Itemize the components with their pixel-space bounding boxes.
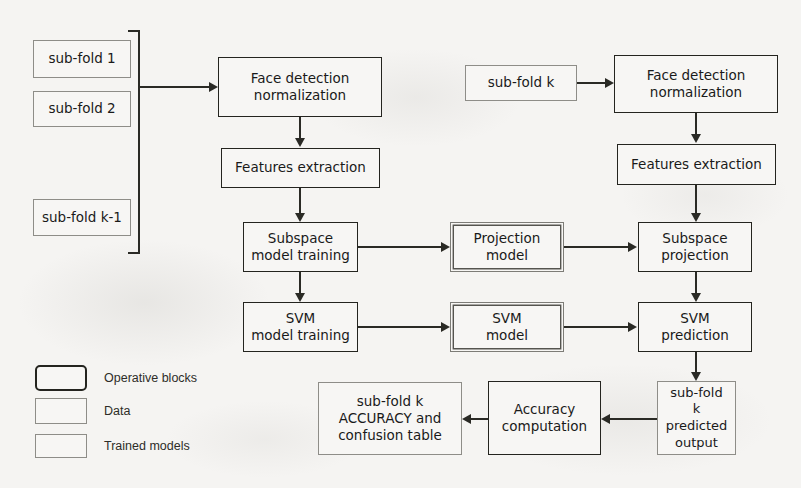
node-subfold-k: sub-fold k [465, 65, 577, 101]
node-subfold-k-minus-1-label: sub-fold k-1 [42, 209, 122, 226]
legend-label-operative-blocks: Operative blocks [104, 371, 197, 385]
trained-models-swatch-icon [35, 434, 87, 458]
node-subspace-projection: Subspace projection [638, 222, 752, 272]
node-subspace-projection-label: Subspace projection [661, 230, 728, 265]
node-train-features-extraction-label: Features extraction [235, 159, 366, 176]
arrowhead-test-features-to-subspace-projection [691, 213, 701, 222]
edge-svm-prediction-to-predicted-output [695, 352, 697, 373]
node-accuracy-result-label: sub-fold k ACCURACY and confusion table [338, 393, 442, 445]
node-subspace-model-training: Subspace model training [243, 222, 358, 272]
node-test-face-detection: Face detection normalization [614, 55, 778, 113]
edge-subfolds-to-face-detection [139, 86, 210, 88]
legend-label-trained-models: Trained models [104, 439, 190, 453]
node-accuracy-computation-label: Accuracy computation [502, 401, 587, 436]
node-train-face-detection: Face detection normalization [218, 57, 382, 117]
legend-item-operative-blocks: Operative blocks [35, 365, 197, 391]
node-subfold-k-label: sub-fold k [488, 74, 554, 91]
arrowhead-subfolds-to-face-detection [209, 82, 218, 92]
node-test-features-extraction: Features extraction [617, 144, 776, 185]
node-predicted-output: sub-fold k predicted output [657, 381, 736, 455]
arrowhead-test-facedet-to-features [691, 134, 701, 143]
edge-predicted-output-to-accuracy-computation [609, 418, 658, 420]
node-subfold-1: sub-fold 1 [33, 40, 131, 78]
edge-svm-model-to-svm-prediction [564, 326, 629, 328]
node-projection-model-label: Projection model [474, 230, 541, 265]
node-test-face-detection-label: Face detection normalization [647, 67, 746, 102]
edge-subspace-training-to-projection-model [358, 246, 442, 248]
arrowhead-accuracy-computation-to-result [462, 414, 471, 424]
edge-svm-training-to-svm-model [358, 326, 442, 328]
node-svm-model-training-label: SVM model training [251, 310, 350, 345]
node-accuracy-result: sub-fold k ACCURACY and confusion table [318, 382, 462, 455]
arrowhead-train-features-to-subspace [295, 213, 305, 222]
edge-projection-model-to-subspace-projection [564, 246, 629, 248]
node-subfold-k-minus-1: sub-fold k-1 [33, 199, 131, 236]
arrowhead-predicted-output-to-accuracy-computation [601, 414, 610, 424]
operative-swatch-icon [35, 365, 87, 391]
edge-subspace-to-svm-training [299, 272, 301, 294]
arrowhead-subfold-k-to-face-detection [605, 78, 614, 88]
node-subfold-2-label: sub-fold 2 [48, 100, 115, 117]
node-train-face-detection-label: Face detection normalization [251, 70, 350, 105]
group-bracket-top-stub [128, 30, 140, 32]
arrowhead-svm-prediction-to-predicted-output [691, 372, 701, 381]
arrowhead-subspace-to-svm-training [295, 293, 305, 302]
node-test-features-extraction-label: Features extraction [631, 156, 762, 173]
arrowhead-subspace-projection-to-svm-prediction [691, 293, 701, 302]
node-subfold-1-label: sub-fold 1 [48, 50, 115, 67]
node-svm-model-label: SVM model [486, 310, 528, 345]
node-train-features-extraction: Features extraction [221, 148, 380, 188]
node-svm-model-training: SVM model training [243, 302, 358, 352]
edge-test-facedet-to-features [695, 113, 697, 135]
edge-accuracy-computation-to-result [470, 418, 488, 420]
edge-train-features-to-subspace [299, 188, 301, 214]
edge-subspace-projection-to-svm-prediction [695, 272, 697, 294]
arrowhead-svm-training-to-svm-model [441, 322, 450, 332]
legend-item-trained-models: Trained models [35, 434, 190, 458]
legend-label-data: Data [104, 404, 130, 418]
arrowhead-subspace-training-to-projection-model [441, 242, 450, 252]
node-svm-model: SVM model [450, 302, 564, 352]
legend-item-data: Data [35, 398, 130, 424]
arrowhead-train-facedet-to-features [295, 138, 305, 147]
edge-subfold-k-to-face-detection [577, 82, 606, 84]
group-bracket-spine [138, 30, 140, 254]
data-swatch-icon [35, 398, 87, 424]
node-subfold-2: sub-fold 2 [33, 91, 131, 127]
node-accuracy-computation: Accuracy computation [488, 381, 601, 455]
node-svm-prediction-label: SVM prediction [661, 310, 729, 345]
node-projection-model: Projection model [450, 222, 564, 272]
node-svm-prediction: SVM prediction [638, 302, 752, 352]
flowchart-diagram: sub-fold 1 sub-fold 2 sub-fold k-1 Face … [0, 0, 801, 488]
node-predicted-output-label: sub-fold k predicted output [666, 385, 728, 452]
arrowhead-projection-model-to-subspace-projection [628, 242, 637, 252]
edge-train-facedet-to-features [299, 117, 301, 139]
node-subspace-model-training-label: Subspace model training [251, 230, 350, 265]
edge-test-features-to-subspace-projection [695, 185, 697, 214]
arrowhead-svm-model-to-svm-prediction [628, 322, 637, 332]
group-bracket-bottom-stub [128, 252, 140, 254]
